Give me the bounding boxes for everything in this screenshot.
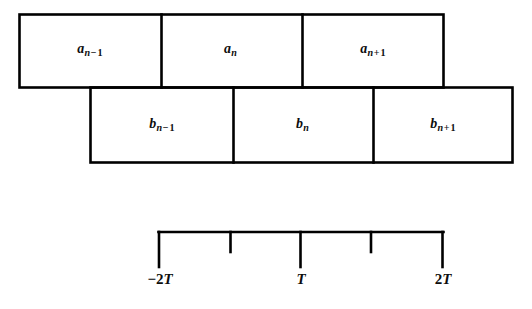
axis-tick-label-T: T xyxy=(296,272,305,287)
a-n-sign xyxy=(237,47,238,58)
minus-2T-symbol: T xyxy=(163,271,172,287)
time-axis-lines xyxy=(159,232,444,267)
T-symbol: T xyxy=(296,271,305,287)
a-n-plus-1-offset: 1 xyxy=(380,47,385,58)
b-n-minus-1-offset: 1 xyxy=(169,122,174,133)
cell-label-a-n-minus-1: an−1 xyxy=(77,42,103,58)
a-n-minus-1-offset: 1 xyxy=(97,47,102,58)
cell-label-a-n-plus-1: an+1 xyxy=(360,42,386,58)
axis-tick-label-minus-2T: −2T xyxy=(147,272,172,287)
2T-prefix: 2 xyxy=(435,271,443,287)
cell-label-a-n: an xyxy=(224,42,238,58)
axis-tick-label-2T: 2T xyxy=(435,272,452,287)
b-n-plus-1-offset: 1 xyxy=(450,122,455,133)
b-n-sign xyxy=(309,122,310,133)
cell-label-b-n: bn xyxy=(296,117,310,133)
figure-canvas: an−1 an an+1 bn−1 bn bn+1 −2T T 2T xyxy=(0,0,532,309)
cell-label-b-n-minus-1: bn−1 xyxy=(149,117,175,133)
cell-label-b-n-plus-1: bn+1 xyxy=(430,117,456,133)
minus-2T-prefix: −2 xyxy=(147,271,163,287)
2T-symbol: T xyxy=(442,271,451,287)
